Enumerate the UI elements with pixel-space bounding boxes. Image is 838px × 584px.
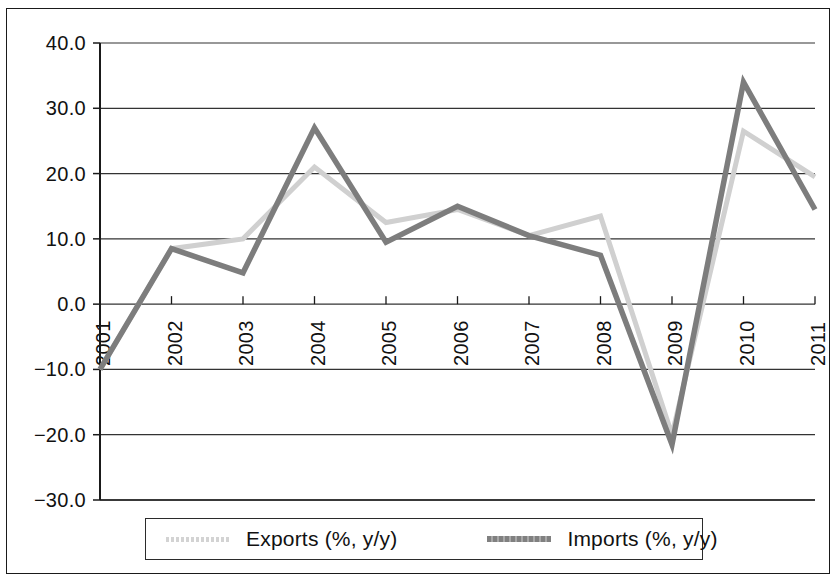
y-axis-ticks [93,43,100,500]
chart-legend: Exports (%, y/y) Imports (%, y/y) [145,518,703,560]
series-line-exports [100,131,815,435]
legend-entry-exports: Exports (%, y/y) [166,527,397,551]
legend-entry-imports: Imports (%, y/y) [487,527,717,551]
chart-figure: 40.030.020.010.00.0−10.0−20.0−30.0 20012… [0,0,838,584]
series-line-imports [100,82,815,444]
legend-label-imports: Imports (%, y/y) [567,527,717,551]
plot-area [0,0,838,584]
exports-line-swatch-icon [166,537,230,542]
imports-line-swatch-icon [487,536,551,542]
legend-label-exports: Exports (%, y/y) [246,527,397,551]
x-axis-ticks [100,296,815,304]
data-series-group [100,82,815,444]
